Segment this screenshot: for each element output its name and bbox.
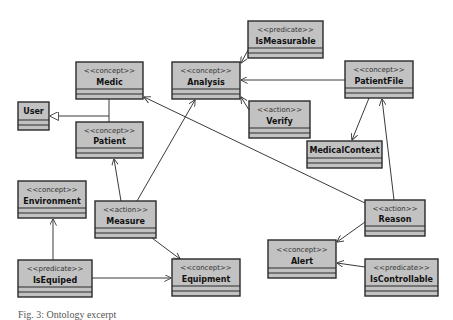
- edge-measure-analysis: [137, 100, 195, 201]
- class-box-user[interactable]: User: [18, 102, 49, 130]
- class-box-medicalContext[interactable]: MedicalContext: [307, 141, 382, 168]
- class-name: IsControllable: [370, 275, 433, 284]
- class-stereotype: <<concept>>: [84, 127, 136, 135]
- class-box-measure[interactable]: <<action>>Measure: [95, 201, 156, 238]
- class-box-verify[interactable]: <<action>>Verify: [249, 101, 310, 138]
- class-box-isControllable[interactable]: <<predicate>>IsControllable: [365, 259, 438, 296]
- edge-measure-patient: [114, 159, 121, 201]
- class-stereotype: <<concept>>: [180, 67, 232, 75]
- class-name: Equipment: [182, 275, 231, 284]
- class-name: Verify: [266, 117, 293, 126]
- class-name: Reason: [379, 215, 412, 224]
- class-name: Medic: [96, 78, 123, 87]
- class-stereotype: <<predicate>>: [27, 265, 84, 273]
- edge-patientfile-medicalcontext: [352, 98, 369, 140]
- edge-iscontrollable-alert: [337, 263, 365, 267]
- class-name: Patient: [93, 137, 126, 146]
- class-name: Measure: [106, 217, 145, 226]
- edge-reason-patientfile: [382, 99, 394, 200]
- edge-measure-equipment: [152, 238, 180, 259]
- class-stereotype: <<action>>: [257, 106, 302, 114]
- nodes: <<predicate>>IsMeasurable<<concept>>Medi…: [18, 21, 438, 297]
- class-box-analysis[interactable]: <<concept>>Analysis: [172, 62, 240, 99]
- class-name: Analysis: [187, 78, 225, 87]
- class-box-patientFile[interactable]: <<concept>>PatientFile: [345, 61, 413, 98]
- class-stereotype: <<action>>: [103, 206, 148, 214]
- class-name: IsEquiped: [33, 276, 78, 285]
- class-stereotype: <<concept>>: [26, 186, 78, 194]
- class-name: Environment: [23, 197, 81, 206]
- edge-verify-analysis: [241, 97, 249, 110]
- class-stereotype: <<action>>: [372, 205, 417, 213]
- class-name: User: [23, 107, 44, 116]
- class-name: Alert: [291, 257, 313, 266]
- class-stereotype: <<concept>>: [84, 67, 136, 75]
- class-name: PatientFile: [355, 77, 405, 86]
- edge-ismeasurable-analysis: [241, 50, 248, 63]
- class-box-reason[interactable]: <<action>>Reason: [365, 200, 425, 236]
- figure-caption: Fig. 3: Ontology excerpt: [18, 309, 116, 320]
- class-stereotype: <<concept>>: [353, 66, 405, 74]
- class-box-isEquiped[interactable]: <<predicate>>IsEquiped: [18, 260, 92, 297]
- class-stereotype: <<predicate>>: [257, 26, 314, 34]
- class-stereotype: <<concept>>: [180, 264, 232, 272]
- class-stereotype: <<concept>>: [276, 246, 328, 254]
- class-box-patient[interactable]: <<concept>>Patient: [76, 122, 143, 158]
- class-name: IsMeasurable: [255, 37, 316, 46]
- class-box-equipment[interactable]: <<concept>>Equipment: [172, 259, 240, 296]
- class-box-alert[interactable]: <<concept>>Alert: [268, 240, 336, 278]
- class-name: MedicalContext: [309, 146, 379, 155]
- class-stereotype: <<predicate>>: [373, 264, 430, 272]
- class-box-isMeasurable[interactable]: <<predicate>>IsMeasurable: [248, 21, 323, 58]
- class-box-medic[interactable]: <<concept>>Medic: [76, 62, 143, 99]
- edge-reason-alert: [337, 222, 365, 242]
- class-box-environment[interactable]: <<concept>>Environment: [18, 181, 86, 218]
